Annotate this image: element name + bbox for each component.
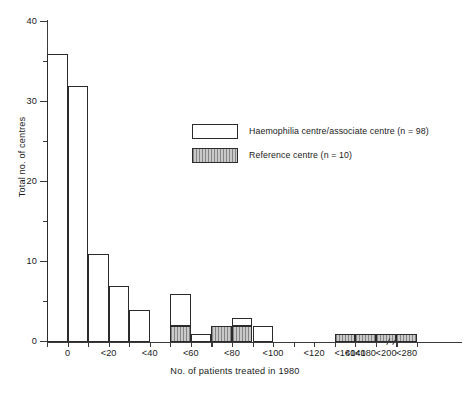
bar-reference-6	[170, 326, 191, 342]
x-tick-6	[170, 343, 171, 347]
y-tick-label-10: 10	[11, 256, 37, 266]
bar-reference-9	[232, 326, 253, 342]
bar-haemophilia-9	[232, 318, 253, 326]
x-tick-label-3: <60	[171, 348, 211, 358]
bar-reference-14	[335, 334, 356, 342]
x-axis-title: No. of patients treated in 1980	[0, 366, 470, 376]
bar-haemophilia-1	[68, 86, 89, 342]
x-tick-label-4: <80	[212, 348, 252, 358]
x-tick-14	[335, 343, 336, 347]
bar-haemophilia-3	[109, 286, 130, 342]
y-tick-label-0: 0	[11, 336, 37, 346]
y-tick-20	[40, 181, 47, 182]
x-tick-5	[150, 343, 151, 347]
x-tick-label-11: <280	[387, 348, 427, 358]
x-tick-12	[294, 343, 295, 347]
x-tick-1	[68, 343, 69, 347]
legend-label-reference: Reference centre (n = 10)	[249, 150, 352, 160]
bar-reference-17	[396, 334, 417, 342]
x-tick-label-5: <100	[253, 348, 293, 358]
y-axis-title: Total no. of centres	[17, 97, 27, 217]
legend-label-haemophilia: Haemophilia centre/associate centre (n =…	[249, 126, 429, 136]
x-tick-label-2: <40	[130, 348, 170, 358]
histogram-chart: 0 10 20 30 40 Total no. of centres No. o…	[0, 0, 470, 393]
bar-haemophilia-6	[170, 294, 191, 326]
x-tick-4	[129, 343, 130, 347]
legend-swatch-hatched-icon	[192, 148, 238, 163]
bar-haemophilia-10	[253, 326, 274, 342]
x-tick-label-0: 0	[48, 348, 88, 358]
x-tick-9	[232, 343, 233, 347]
bar-haemophilia-7	[191, 334, 212, 342]
x-tick-11	[273, 343, 274, 347]
x-tick-0	[47, 343, 48, 347]
x-tick-16	[376, 343, 377, 347]
y-tick-0	[40, 341, 47, 342]
x-tick-13	[314, 343, 315, 347]
x-tick-17	[396, 343, 397, 347]
y-tick-10	[40, 261, 47, 262]
legend-swatch-open-icon	[192, 124, 238, 139]
y-tick-label-40: 40	[11, 16, 37, 26]
bar-reference-15	[355, 334, 376, 342]
x-tick-8	[211, 343, 212, 347]
x-tick-10	[253, 343, 254, 347]
bar-haemophilia-0	[47, 54, 68, 342]
x-tick-label-1: <20	[89, 348, 129, 358]
bar-haemophilia-4	[129, 310, 150, 342]
x-tick-3	[109, 343, 110, 347]
y-tick-30	[40, 101, 47, 102]
x-tick-18	[417, 343, 418, 347]
bar-reference-8	[211, 326, 232, 342]
x-tick-7	[191, 343, 192, 347]
x-tick-2	[88, 343, 89, 347]
bar-haemophilia-2	[88, 254, 109, 342]
x-tick-15	[355, 343, 356, 347]
y-tick-40	[40, 21, 47, 22]
